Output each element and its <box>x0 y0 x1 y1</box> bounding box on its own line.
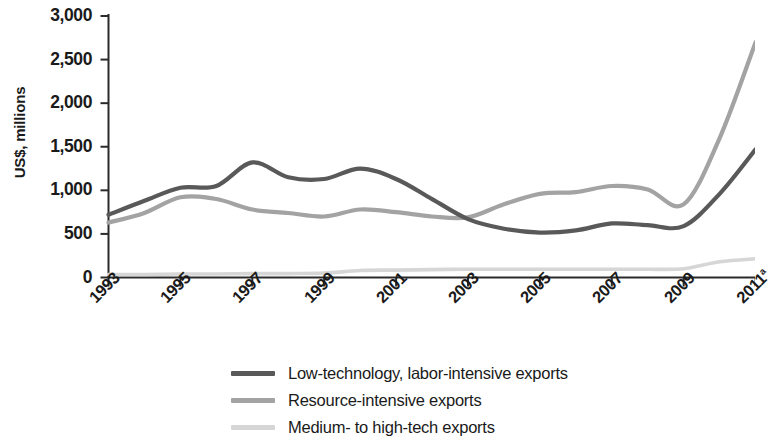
legend-item[interactable]: Low-technology, labor-intensive exports <box>231 360 701 387</box>
chart-axes <box>101 14 756 287</box>
series-line <box>109 149 756 232</box>
x-axis-ticks <box>109 278 756 287</box>
legend-item-label: Medium- to high-tech exports <box>288 418 495 437</box>
legend-item-label: Low-technology, labor-intensive exports <box>288 364 568 383</box>
chart-legend: Low-technology, labor-intensive exportsR… <box>231 360 701 441</box>
legend-color-swatch <box>231 425 275 430</box>
legend-item[interactable]: Resource-intensive exports <box>231 387 701 414</box>
legend-item[interactable]: Medium- to high-tech exports <box>231 414 701 441</box>
chart-series-lines <box>109 42 756 274</box>
series-line <box>109 259 756 275</box>
legend-color-swatch <box>231 371 275 376</box>
legend-color-swatch <box>231 398 275 403</box>
legend-item-label: Resource-intensive exports <box>288 391 481 410</box>
series-line <box>109 42 756 222</box>
y-axis-ticks <box>101 16 109 278</box>
